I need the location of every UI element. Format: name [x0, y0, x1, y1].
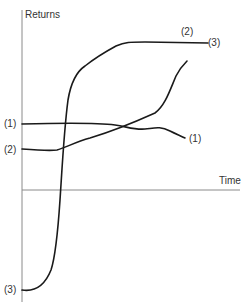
y-axis-label: Returns	[25, 9, 60, 20]
series-1-curve	[22, 123, 185, 138]
series-3-curve	[22, 42, 208, 290]
series-2-curve	[22, 61, 187, 150]
series-1-end-label: (1)	[189, 133, 201, 144]
series-3-start-label: (3)	[4, 284, 16, 295]
series-2-start-label: (2)	[4, 144, 16, 155]
series-2-end-label: (2)	[181, 26, 193, 37]
series-1-start-label: (1)	[4, 118, 16, 129]
x-axis-label: Time	[219, 175, 241, 186]
returns-time-chart: Returns Time (1) (2) (3) (1) (2) (3)	[0, 0, 247, 306]
series-3-end-label: (3)	[208, 37, 220, 48]
